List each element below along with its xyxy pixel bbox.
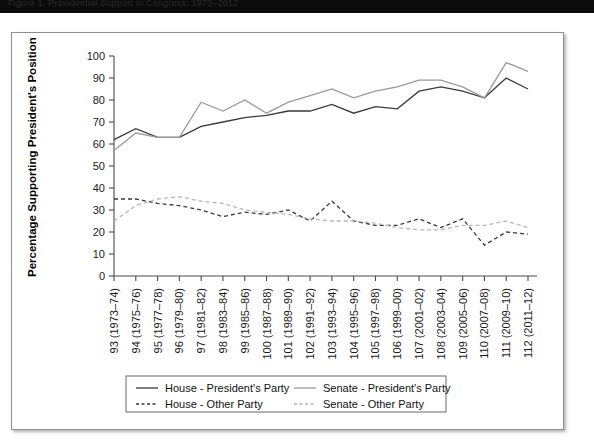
- figure-panel: Percentage Supporting President's Positi…: [11, 32, 564, 430]
- series-lines: [114, 63, 528, 246]
- series-line-house_president: [114, 78, 528, 140]
- legend-label: Senate - Other Party: [323, 398, 424, 410]
- x-tick-label: 104 (1995–96): [348, 288, 360, 360]
- x-tick-label: 105 (1997–98): [369, 288, 381, 360]
- x-tick-label: 98 (1983–84): [217, 288, 229, 353]
- y-tick-label: 0: [99, 270, 105, 282]
- y-tick-label: 10: [93, 248, 105, 260]
- legend-label: House - Other Party: [165, 398, 263, 410]
- x-tick-label: 111 (2009–10): [500, 288, 512, 358]
- y-tick-label: 20: [93, 226, 105, 238]
- x-tick-label: 97 (1981–82): [195, 288, 207, 353]
- legend-label: House - President's Party: [165, 382, 290, 394]
- legend-label: Senate - President's Party: [323, 382, 451, 394]
- y-axis: 0102030405060708090100: [87, 50, 114, 282]
- x-tick-label: 95 (1977–78): [152, 288, 164, 353]
- y-tick-label: 40: [93, 182, 105, 194]
- y-axis-title-text: Percentage Supporting President's Positi…: [26, 37, 38, 277]
- x-tick-label: 93 (1973–74): [108, 288, 120, 353]
- y-axis-title: Percentage Supporting President's Positi…: [26, 37, 38, 277]
- x-tick-label: 109 (2005–06): [457, 288, 469, 360]
- x-tick-label: 107 (2001–02): [413, 288, 425, 360]
- x-axis: 93 (1973–74)94 (1975–76)95 (1977–78)96 (…: [108, 276, 537, 360]
- chart-legend: House - President's PartySenate - Presid…: [126, 376, 451, 412]
- y-tick-label: 80: [93, 94, 105, 106]
- y-tick-label: 30: [93, 204, 105, 216]
- presidential-support-line-chart: Percentage Supporting President's Positi…: [12, 33, 563, 429]
- series-line-house_other: [114, 199, 528, 245]
- figure-caption-text: Figure 1. Presidential Support in Congre…: [8, 0, 238, 8]
- y-tick-label: 60: [93, 138, 105, 150]
- x-tick-label: 112 (2011–12): [522, 288, 534, 358]
- x-tick-label: 96 (1979–80): [173, 288, 185, 353]
- x-tick-label: 106 (1999–00): [391, 288, 403, 360]
- x-tick-label: 102 (1991–92): [304, 288, 316, 360]
- y-tick-label: 90: [93, 72, 105, 84]
- x-tick-label: 101 (1989–90): [282, 288, 294, 360]
- series-line-senate_president: [114, 63, 528, 151]
- x-tick-label: 100 (1987–88): [261, 288, 273, 360]
- x-tick-label: 108 (2003–04): [435, 288, 447, 360]
- series-line-senate_other: [114, 197, 528, 230]
- figure-caption-bar: Figure 1. Presidential Support in Congre…: [0, 0, 594, 13]
- y-tick-label: 50: [93, 160, 105, 172]
- x-tick-label: 94 (1975–76): [130, 288, 142, 353]
- x-tick-label: 99 (1985–86): [239, 288, 251, 353]
- x-tick-label: 110 (2007–08): [478, 288, 490, 359]
- y-tick-label: 100: [87, 50, 105, 62]
- x-tick-label: 103 (1993–94): [326, 288, 338, 360]
- y-tick-label: 70: [93, 116, 105, 128]
